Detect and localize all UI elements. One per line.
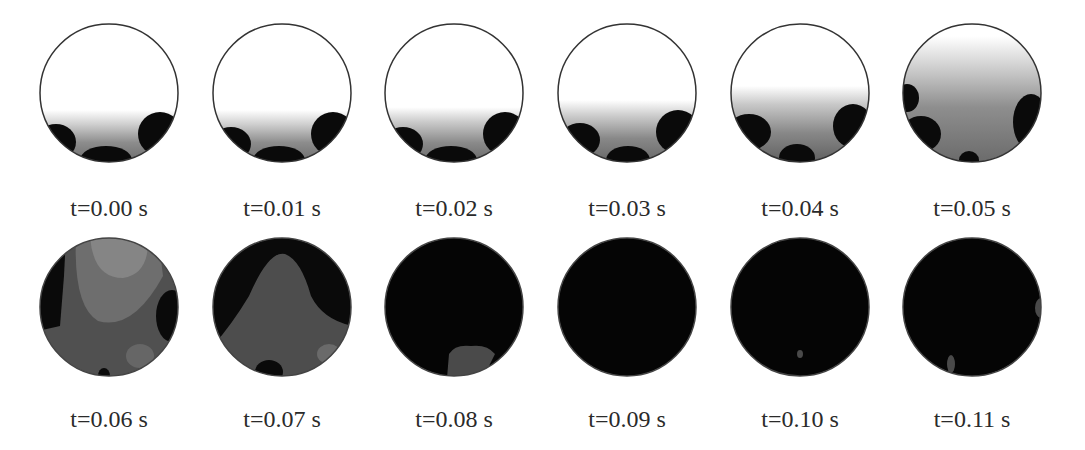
frame-t011	[886, 236, 1058, 378]
cross-section-image	[556, 22, 698, 164]
time-label: t=0.01 s	[196, 195, 368, 222]
time-label: t=0.05 s	[886, 195, 1058, 222]
frame-t008	[368, 236, 540, 378]
frame-t002	[368, 22, 540, 164]
cross-section-image	[38, 22, 180, 164]
cross-section-image	[729, 22, 871, 164]
cross-section-image	[211, 236, 353, 378]
cross-section-image	[556, 236, 698, 378]
time-label: t=0.10 s	[714, 406, 886, 433]
time-label: t=0.08 s	[368, 406, 540, 433]
cross-section-image	[383, 22, 525, 164]
frame-t003	[541, 22, 713, 164]
frame-t005	[886, 22, 1058, 164]
frame-t000	[23, 22, 195, 164]
frame-t007	[196, 236, 368, 378]
frame-t006	[23, 236, 195, 378]
cross-section-image	[383, 236, 525, 378]
time-label: t=0.11 s	[886, 406, 1058, 433]
time-label: t=0.06 s	[23, 406, 195, 433]
cross-section-image	[729, 236, 871, 378]
frame-t001	[196, 22, 368, 164]
cross-section-image	[901, 236, 1043, 378]
cross-section-image	[38, 236, 180, 378]
time-label: t=0.03 s	[541, 195, 713, 222]
cross-section-image	[901, 22, 1043, 164]
time-label: t=0.09 s	[541, 406, 713, 433]
cross-section-image	[211, 22, 353, 164]
time-label: t=0.02 s	[368, 195, 540, 222]
frame-t009	[541, 236, 713, 378]
time-label: t=0.00 s	[23, 195, 195, 222]
frame-t010	[714, 236, 886, 378]
time-label: t=0.04 s	[714, 195, 886, 222]
time-label: t=0.07 s	[196, 406, 368, 433]
frame-t004	[714, 22, 886, 164]
tomography-figure: t=0.00 s t=0.01 s t=0.02 s t=0.03 s t=0.…	[0, 0, 1085, 450]
